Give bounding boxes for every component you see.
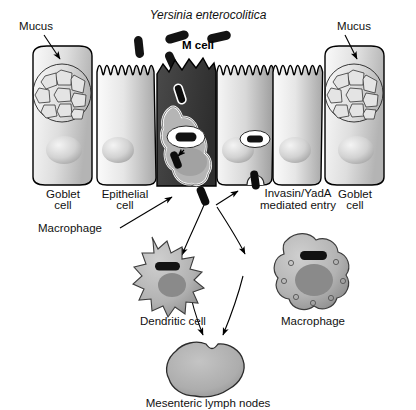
invaded-bacterium (247, 136, 263, 143)
epithelial-cell-mid (217, 66, 274, 190)
macrophage-lower-nucleus (295, 264, 333, 296)
engulfed-bacterium (176, 133, 197, 142)
lymph-nodes-label: Mesenteric lymph nodes (146, 397, 271, 409)
invasin-label-1: Invasin/YadA (265, 187, 332, 199)
goblet-left-label-2: cell (54, 199, 71, 211)
goblet-cell-left (33, 46, 92, 185)
invasin-label-2: mediated entry (260, 199, 336, 211)
macrophage-engulfed-bacterium (300, 251, 327, 260)
goblet-nucleus-right (338, 136, 374, 164)
yersinia-invasion-diagram: Yersinia enterocolitica M cell (0, 0, 416, 410)
dendritic-nucleus (158, 273, 186, 297)
goblet-cell-right (325, 46, 384, 185)
m-cell-label: M cell (182, 39, 214, 51)
epithelial-cell-left (97, 66, 156, 186)
goblet-nucleus-left (46, 136, 82, 164)
epithelial-nucleus (102, 137, 134, 163)
mucus-label-left: Mucus (19, 20, 53, 32)
epithelial-cell-right (273, 66, 323, 186)
epithelial-label-2: cell (116, 199, 133, 211)
epithelial-nucleus (279, 137, 311, 163)
macrophage-lower-label: Macrophage (281, 315, 345, 327)
dendritic-engulfed-bacterium (155, 262, 180, 271)
figure-canvas: Yersinia enterocolitica M cell (0, 0, 416, 410)
goblet-right-label-2: cell (346, 199, 363, 211)
pathogen-title: Yersinia enterocolitica (150, 8, 267, 22)
dendritic-cell-label: Dendritic cell (140, 315, 206, 327)
macrophage-pointer-label: Macrophage (38, 222, 102, 234)
mucus-label-right: Mucus (337, 20, 371, 32)
